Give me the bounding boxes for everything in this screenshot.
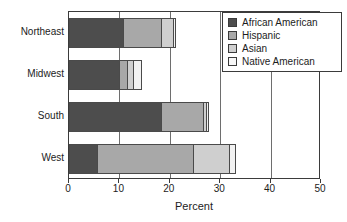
chart-legend: African AmericanHispanicAsianNative Amer… bbox=[222, 12, 342, 72]
bar-segment-south-hispanic bbox=[161, 102, 204, 132]
legend-label-hispanic: Hispanic bbox=[242, 31, 280, 41]
bar-segment-west-asian bbox=[193, 144, 230, 174]
legend-swatch-hispanic bbox=[228, 31, 237, 40]
bar-segment-midwest-african-american bbox=[69, 60, 120, 90]
bar-segment-west-hispanic bbox=[97, 144, 194, 174]
x-tick-label-10: 10 bbox=[113, 184, 124, 194]
x-tick-label-50: 50 bbox=[314, 184, 325, 194]
x-tick-label-30: 30 bbox=[214, 184, 225, 194]
bar-segment-south-native-american bbox=[206, 102, 210, 132]
x-tick-label-40: 40 bbox=[264, 184, 275, 194]
bar-midwest bbox=[69, 60, 141, 90]
category-axis-labels: NortheastMidwestSouthWest bbox=[0, 11, 64, 179]
legend-item-hispanic[interactable]: Hispanic bbox=[228, 29, 337, 42]
bar-segment-west-african-american bbox=[69, 144, 98, 174]
legend-item-native-american[interactable]: Native American bbox=[228, 55, 337, 68]
bar-northeast bbox=[69, 18, 175, 48]
legend-item-asian[interactable]: Asian bbox=[228, 42, 337, 55]
legend-swatch-asian bbox=[228, 44, 237, 53]
bar-segment-northeast-hispanic bbox=[123, 18, 162, 48]
legend-swatch-african-american bbox=[228, 18, 237, 27]
bar-segment-west-native-american bbox=[229, 144, 236, 174]
stacked-bar-chart: NortheastMidwestSouthWest 01020304050 Pe… bbox=[0, 0, 347, 222]
legend-swatch-native-american bbox=[228, 57, 237, 66]
x-tick-label-0: 0 bbox=[65, 184, 71, 194]
x-axis-title: Percent bbox=[68, 200, 320, 212]
legend-label-african-american: African American bbox=[242, 18, 318, 28]
bar-segment-midwest-native-american bbox=[133, 60, 142, 90]
bar-segment-northeast-native-american bbox=[173, 18, 176, 48]
x-tick-label-20: 20 bbox=[163, 184, 174, 194]
bar-west bbox=[69, 144, 235, 174]
x-axis: 01020304050 bbox=[68, 179, 320, 201]
legend-item-african-american[interactable]: African American bbox=[228, 16, 337, 29]
category-label-west: West bbox=[0, 153, 64, 163]
legend-label-native-american: Native American bbox=[242, 57, 315, 67]
category-label-midwest: Midwest bbox=[0, 69, 64, 79]
legend-label-asian: Asian bbox=[242, 44, 267, 54]
category-label-south: South bbox=[0, 111, 64, 121]
bar-segment-northeast-african-american bbox=[69, 18, 124, 48]
category-label-northeast: Northeast bbox=[0, 27, 64, 37]
bar-segment-south-african-american bbox=[69, 102, 162, 132]
bar-south bbox=[69, 102, 208, 132]
